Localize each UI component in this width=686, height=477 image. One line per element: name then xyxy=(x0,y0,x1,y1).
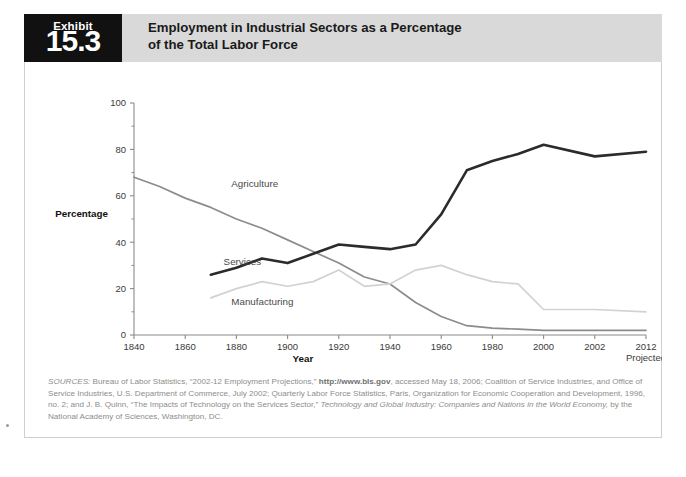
x-tick-label: 1860 xyxy=(175,341,196,352)
chart-axis-layer: 0204060801001840186018801900192019401960… xyxy=(110,97,656,352)
page-mark-dot xyxy=(6,424,9,427)
series-label-agriculture: Agriculture xyxy=(231,178,278,189)
x-tick-label: 1940 xyxy=(379,341,400,352)
y-tick-label: 80 xyxy=(115,144,126,155)
series-label-manufacturing: Manufacturing xyxy=(231,296,293,307)
exhibit-title-line2: of the Total Labor Force xyxy=(148,37,298,52)
chart-label-layer: ProjectedYearPercentageAgricultureServic… xyxy=(55,178,662,364)
source-italic-title: Technology and Global Industry: Companie… xyxy=(320,400,608,409)
series-line-services xyxy=(211,145,646,275)
y-tick-label: 0 xyxy=(121,329,126,340)
y-axis-title: Percentage xyxy=(55,208,108,219)
chart-series-layer xyxy=(134,145,646,331)
chart-svg: 0204060801001840186018801900192019401960… xyxy=(36,70,662,370)
exhibit-title-line1: Employment in Industrial Sectors as a Pe… xyxy=(148,20,462,35)
series-label-services: Services xyxy=(224,256,262,267)
x-tick-label: 2000 xyxy=(533,341,554,352)
x-axis-title: Year xyxy=(293,353,314,364)
source-url[interactable]: http://www.bls.gov xyxy=(319,377,391,386)
x-tick-label: 2012 xyxy=(635,341,656,352)
line-chart: 0204060801001840186018801900192019401960… xyxy=(36,70,662,370)
x-tick-label: 1980 xyxy=(482,341,503,352)
x-axis-projected-note: Projected xyxy=(626,352,662,363)
y-tick-label: 60 xyxy=(115,190,126,201)
exhibit-title: Employment in Industrial Sectors as a Pe… xyxy=(148,20,618,53)
source-note: SOURCES: Bureau of Labor Statistics, “20… xyxy=(48,376,646,422)
x-tick-label: 1880 xyxy=(226,341,247,352)
exhibit-number: 15.3 xyxy=(24,26,122,56)
series-line-agriculture xyxy=(134,177,646,330)
y-tick-label: 100 xyxy=(110,97,126,108)
y-tick-label: 40 xyxy=(115,237,126,248)
source-part1: Bureau of Labor Statistics, “2002-12 Emp… xyxy=(90,377,319,386)
x-tick-label: 1920 xyxy=(328,341,349,352)
y-tick-label: 20 xyxy=(115,283,126,294)
source-lead: SOURCES: xyxy=(48,377,90,386)
x-tick-label: 2002 xyxy=(584,341,605,352)
x-tick-label: 1900 xyxy=(277,341,298,352)
x-tick-label: 1960 xyxy=(431,341,452,352)
x-tick-label: 1840 xyxy=(123,341,144,352)
